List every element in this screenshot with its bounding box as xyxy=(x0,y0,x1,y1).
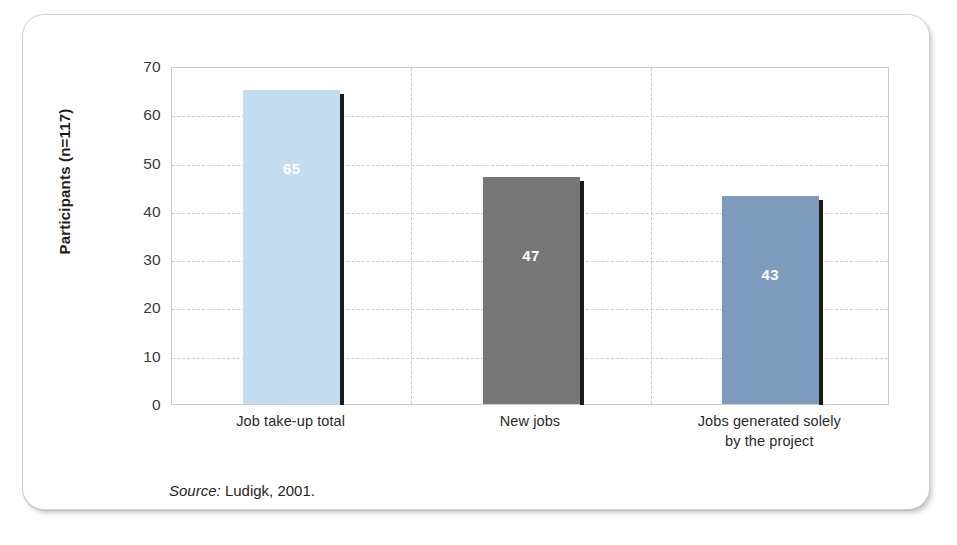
bar-value-label-2: 47 xyxy=(483,247,580,264)
x-axis-category-labels: Job take-up totalNew jobsJobs generated … xyxy=(171,411,889,469)
bar-shadow-1 xyxy=(340,94,344,405)
y-tick-label-20: 20 xyxy=(143,299,161,317)
source-note: Source: Ludigk, 2001. xyxy=(169,482,315,499)
gridline-x-2 xyxy=(651,68,652,404)
plot-area: 654743 xyxy=(171,67,889,405)
bar-value-label-1: 65 xyxy=(243,160,340,177)
x-tick-label-2-line-1: New jobs xyxy=(410,411,649,431)
bar-fill-3 xyxy=(722,196,819,404)
y-tick-label-0: 0 xyxy=(152,396,161,414)
bar-1: 65 xyxy=(243,90,340,404)
y-tick-label-30: 30 xyxy=(143,251,161,269)
y-axis-title: Participants (n=117) xyxy=(56,67,73,297)
x-tick-label-1-line-1: Job take-up total xyxy=(171,411,410,431)
y-tick-label-40: 40 xyxy=(143,203,161,221)
bar-shadow-2 xyxy=(580,181,584,405)
bar-fill-1 xyxy=(243,90,340,404)
y-axis-tick-labels: 010203040506070 xyxy=(109,67,161,405)
source-label: Source: xyxy=(169,482,221,499)
x-tick-label-2: New jobs xyxy=(410,411,649,431)
x-tick-label-3-line-1: Jobs generated solely xyxy=(650,411,889,431)
source-text: Ludigk, 2001. xyxy=(225,482,315,499)
x-tick-label-3-line-2: by the project xyxy=(650,431,889,451)
gridline-x-1 xyxy=(411,68,412,404)
y-tick-label-60: 60 xyxy=(143,106,161,124)
y-tick-label-10: 10 xyxy=(143,348,161,366)
bar-2: 47 xyxy=(483,177,580,404)
bar-3: 43 xyxy=(722,196,819,404)
bar-fill-2 xyxy=(483,177,580,404)
x-tick-label-3: Jobs generated solelyby the project xyxy=(650,411,889,451)
figure-card: Participants (n=117) 010203040506070 654… xyxy=(22,14,930,510)
bar-shadow-3 xyxy=(819,200,823,405)
y-tick-label-50: 50 xyxy=(143,155,161,173)
x-tick-label-1: Job take-up total xyxy=(171,411,410,431)
y-tick-label-70: 70 xyxy=(143,58,161,76)
bar-value-label-3: 43 xyxy=(722,266,819,283)
